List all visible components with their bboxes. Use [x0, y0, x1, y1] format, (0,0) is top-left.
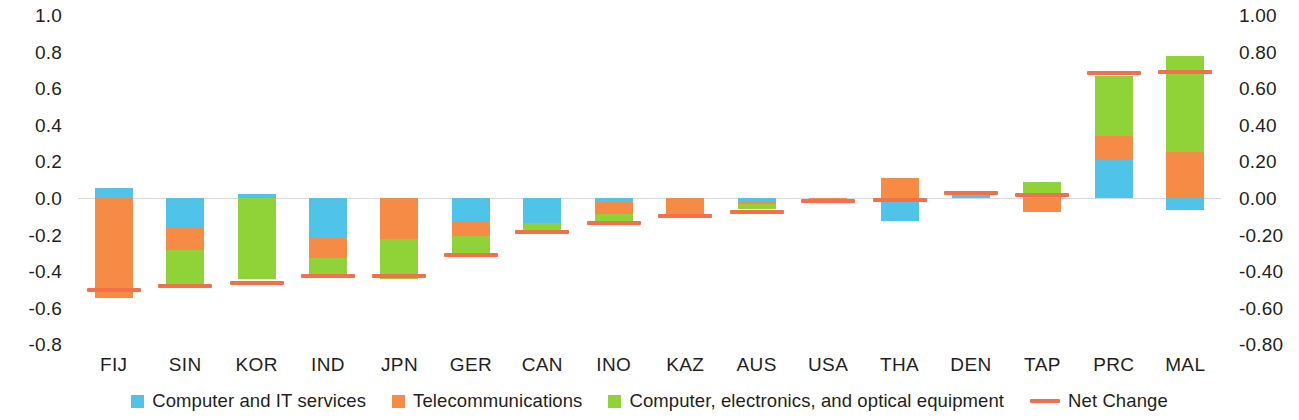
y-axis-left-tick: -0.2 [0, 225, 70, 244]
y-axis-left-tick: 0.4 [0, 115, 70, 134]
y-axis-right: 1.000.800.600.400.200.00-0.20-0.40-0.60-… [1229, 0, 1299, 352]
x-axis-tick-label: THA [864, 352, 935, 378]
bar-segment [380, 198, 418, 239]
net-change-marker [87, 288, 141, 292]
legend-swatch-icon [392, 395, 405, 408]
x-axis-tick-label: KOR [221, 352, 292, 378]
bar-segment [523, 198, 561, 223]
y-axis-right-tick: -0.20 [1229, 225, 1299, 244]
bar-segment [1023, 198, 1061, 212]
bar-column-kaz[interactable] [650, 0, 721, 352]
net-change-marker [301, 274, 355, 278]
bar-segment [238, 198, 276, 279]
legend-item[interactable]: Computer, electronics, and optical equip… [608, 391, 1004, 411]
bar-column-jpn[interactable] [364, 0, 435, 352]
bar-column-kor[interactable] [221, 0, 292, 352]
bar-column-tap[interactable] [1007, 0, 1078, 352]
bar-segment [309, 258, 347, 274]
y-axis-left-tick: 0.8 [0, 42, 70, 61]
bar-segment [1095, 136, 1133, 161]
y-axis-right-tick: 0.00 [1229, 189, 1299, 208]
net-change-marker [444, 253, 498, 257]
x-axis-tick-label: FIJ [78, 352, 149, 378]
chart-legend: Computer and IT servicesTelecommunicatio… [0, 386, 1299, 416]
y-axis-right-tick: -0.40 [1229, 262, 1299, 281]
net-change-marker [587, 221, 641, 225]
bar-column-tha[interactable] [864, 0, 935, 352]
legend-label: Computer, electronics, and optical equip… [629, 391, 1004, 411]
bar-column-usa[interactable] [792, 0, 863, 352]
bar-segment [666, 198, 704, 215]
net-change-marker [658, 214, 712, 218]
bar-column-aus[interactable] [721, 0, 792, 352]
bar-segment [738, 204, 776, 209]
x-axis-tick-label: GER [435, 352, 506, 378]
bar-segment [881, 178, 919, 198]
x-axis-tick-label: TAP [1007, 352, 1078, 378]
net-change-marker [873, 198, 927, 202]
bar-segment [1095, 76, 1133, 135]
net-change-marker [730, 210, 784, 214]
bar-column-den[interactable] [935, 0, 1006, 352]
legend-line-marker-icon [1030, 399, 1060, 403]
bar-column-fij[interactable] [78, 0, 149, 352]
bar-column-ger[interactable] [435, 0, 506, 352]
bar-segment [166, 198, 204, 227]
bar-segment [595, 202, 633, 214]
net-change-marker [230, 281, 284, 285]
bar-segment [166, 250, 204, 284]
bar-segment [452, 221, 490, 237]
net-change-marker [1015, 193, 1069, 197]
x-axis-tick-label: PRC [1078, 352, 1149, 378]
bar-segment [95, 198, 133, 298]
y-axis-left-tick: -0.4 [0, 262, 70, 281]
bar-segment [1166, 198, 1204, 210]
bar-column-prc[interactable] [1078, 0, 1149, 352]
bar-column-mal[interactable] [1150, 0, 1221, 352]
x-axis-tick-label: IND [292, 352, 363, 378]
bar-column-sin[interactable] [149, 0, 220, 352]
x-axis-tick-label: INO [578, 352, 649, 378]
bar-segment [309, 198, 347, 238]
y-axis-left: 1.00.80.60.40.20.0-0.2-0.4-0.6-0.8 [0, 0, 70, 352]
y-axis-right-tick: -0.80 [1229, 335, 1299, 354]
x-axis-tick-label: SIN [149, 352, 220, 378]
x-axis-tick-label: DEN [935, 352, 1006, 378]
y-axis-right-tick: 0.80 [1229, 42, 1299, 61]
bar-column-can[interactable] [507, 0, 578, 352]
y-axis-right-tick: 0.40 [1229, 115, 1299, 134]
bar-segment [380, 239, 418, 278]
y-axis-left-tick: 0.2 [0, 152, 70, 171]
legend-item[interactable]: Telecommunications [392, 391, 582, 411]
x-axis-tick-label: CAN [507, 352, 578, 378]
legend-label: Computer and IT services [152, 391, 366, 411]
legend-label: Telecommunications [413, 391, 582, 411]
net-change-marker [944, 191, 998, 195]
y-axis-left-tick: -0.6 [0, 298, 70, 317]
x-axis-tick-label: KAZ [650, 352, 721, 378]
y-axis-right-tick: 1.00 [1229, 6, 1299, 25]
net-change-marker [801, 199, 855, 203]
x-axis-tick-label: AUS [721, 352, 792, 378]
x-axis-tick-label: USA [792, 352, 863, 378]
bar-column-ind[interactable] [292, 0, 363, 352]
net-change-marker [158, 284, 212, 288]
x-axis-tick-label: JPN [364, 352, 435, 378]
bar-segment [452, 198, 490, 221]
legend-item[interactable]: Net Change [1030, 391, 1168, 411]
net-change-marker [1087, 71, 1141, 75]
legend-label: Net Change [1068, 391, 1168, 411]
legend-item[interactable]: Computer and IT services [131, 391, 366, 411]
y-axis-left-tick: -0.8 [0, 335, 70, 354]
legend-swatch-icon [131, 395, 144, 408]
bar-column-ino[interactable] [578, 0, 649, 352]
plot-area [78, 0, 1221, 352]
y-axis-left-tick: 1.0 [0, 6, 70, 25]
legend-swatch-icon [608, 395, 621, 408]
bar-segment [95, 188, 133, 198]
bar-segment [1166, 152, 1204, 198]
x-axis-labels: FIJSINKORINDJPNGERCANINOKAZAUSUSATHADENT… [78, 352, 1221, 382]
y-axis-right-tick: -0.60 [1229, 298, 1299, 317]
bar-segment [1095, 160, 1133, 198]
bar-segment [166, 227, 204, 250]
